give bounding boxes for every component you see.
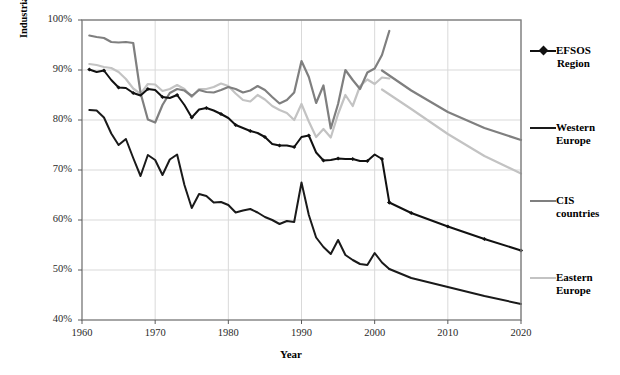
x-tick-1960: 1960: [62, 327, 102, 338]
legend-swatch-icon: [530, 122, 556, 134]
y-tick-80pct: 80%: [34, 113, 72, 124]
legend-swatch-icon: [530, 45, 556, 57]
x-tick-2020: 2020: [501, 327, 541, 338]
x-tick-1990: 1990: [282, 327, 322, 338]
legend-label-line1: EFSOS: [556, 44, 591, 57]
legend-swatch-icon: [530, 195, 556, 207]
legend-label: EasternEurope: [556, 271, 593, 298]
legend-item-cis[interactable]: CIScountries: [530, 194, 599, 221]
x-tick-1980: 1980: [208, 327, 248, 338]
legend-item-eastern[interactable]: EasternEurope: [530, 271, 593, 298]
chart-plot-area: [0, 0, 620, 375]
series-eastern-europe: [89, 64, 521, 174]
y-tick-40pct: 40%: [34, 313, 72, 324]
legend-label-line2: Europe: [556, 284, 593, 297]
y-tick-70pct: 70%: [34, 163, 72, 174]
legend-label: WesternEurope: [556, 121, 595, 148]
y-tick-100pct: 100%: [34, 13, 72, 24]
chart-legend: EFSOSRegionWesternEuropeCIScountriesEast…: [530, 26, 618, 316]
y-tick-90pct: 90%: [34, 63, 72, 74]
x-tick-2000: 2000: [355, 327, 395, 338]
x-axis-title: Year: [60, 348, 522, 360]
legend-label-line2: Region: [556, 57, 591, 70]
y-tick-50pct: 50%: [34, 263, 72, 274]
legend-label: CIScountries: [556, 194, 599, 221]
x-tick-1970: 1970: [135, 327, 175, 338]
legend-item-western[interactable]: WesternEurope: [530, 121, 595, 148]
legend-label-line1: CIS: [556, 194, 599, 207]
legend-swatch-icon: [530, 272, 556, 284]
legend-label: EFSOSRegion: [556, 44, 591, 71]
series-efsos-region: [87, 67, 523, 252]
legend-label-line2: Europe: [556, 134, 595, 147]
y-tick-60pct: 60%: [34, 213, 72, 224]
data-series-group: [87, 31, 523, 304]
x-tick-2010: 2010: [428, 327, 468, 338]
legend-label-line1: Eastern: [556, 271, 593, 284]
chart-container: Industrial roundwood consumption as a pr…: [0, 0, 620, 375]
legend-label-line1: Western: [556, 121, 595, 134]
legend-label-line2: countries: [556, 207, 599, 220]
legend-item-efsos[interactable]: EFSOSRegion: [530, 44, 591, 71]
